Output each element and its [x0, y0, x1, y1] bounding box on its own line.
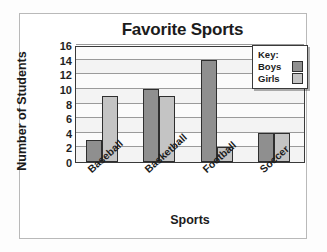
legend-swatch-boys	[292, 61, 303, 72]
legend-entry-label: Boys	[258, 61, 281, 72]
y-tick-label: 12	[60, 70, 72, 81]
y-tick-label: 2	[66, 143, 72, 154]
chart-legend: Key: BoysGirls	[252, 45, 308, 89]
y-tick-label: 10	[60, 84, 72, 95]
legend-entries: BoysGirls	[258, 61, 303, 84]
bar-football-boys	[201, 60, 217, 162]
y-axis-title: Number of Students	[15, 46, 29, 176]
legend-entry-girls: Girls	[258, 73, 303, 84]
y-tick-label: 6	[66, 114, 72, 125]
legend-swatch-girls	[292, 73, 303, 84]
chart-title: Favorite Sports	[60, 20, 305, 40]
y-tick-label: 16	[60, 41, 72, 52]
y-tick-label: 0	[66, 158, 72, 169]
y-tick-label: 14	[60, 55, 72, 66]
y-tick-label: 4	[66, 128, 72, 139]
y-axis-tick-labels: 0246810121416	[52, 46, 72, 163]
legend-entry-boys: Boys	[258, 61, 303, 72]
legend-entry-label: Girls	[258, 73, 280, 84]
legend-title: Key:	[258, 49, 303, 60]
y-tick-label: 8	[66, 99, 72, 110]
chart-figure: Favorite Sports Number of Students 02468…	[0, 0, 327, 252]
x-axis-tick-labels: BaseballBasketballFootballSoccer	[75, 164, 305, 208]
x-axis-title: Sports	[75, 213, 305, 227]
